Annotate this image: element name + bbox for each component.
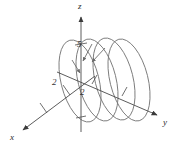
diagram-svg [0,0,177,153]
circle-1 [51,36,108,127]
z-tick-label-5: 5 [77,40,82,49]
x-tick-label-2: 2 [52,78,57,87]
axis-lines [23,17,157,132]
y-axis-label: y [163,118,167,127]
circle-group [51,34,157,127]
x-tick-mark-outer [40,103,47,113]
z-axis-label: z [78,2,82,11]
y-tick-mark-outer [122,87,127,96]
y-tick-label-2: 2 [80,88,85,97]
figure-canvas: z x y 5 2 2 [0,0,177,153]
x-axis-label: x [10,133,14,142]
